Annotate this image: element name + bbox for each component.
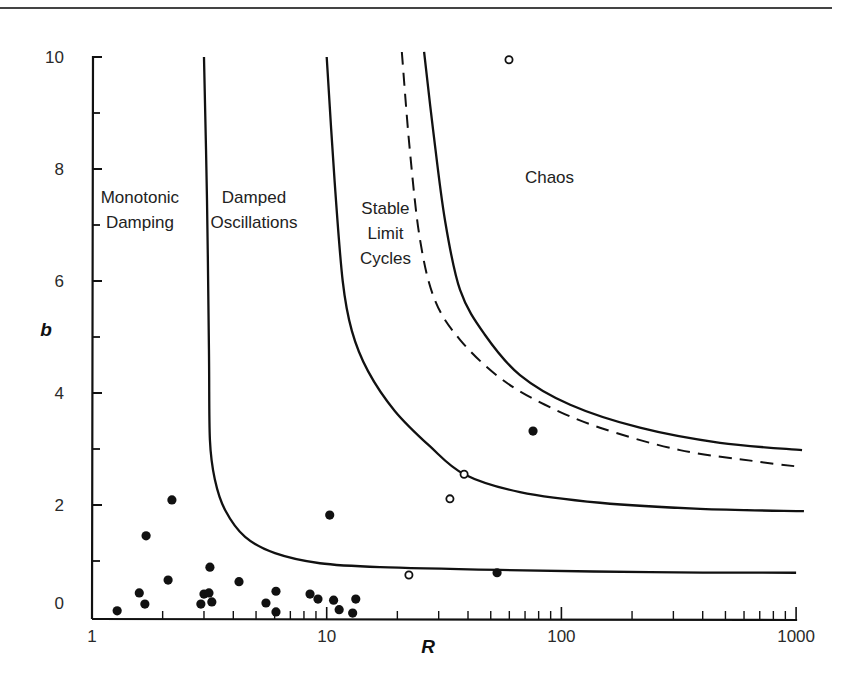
open-data-point [405, 571, 412, 578]
boundary-curves [204, 52, 804, 573]
filled-data-point [207, 597, 216, 606]
x-axis-line [92, 619, 797, 620]
filled-data-point [528, 426, 537, 435]
filled-data-point [335, 605, 344, 614]
filled-data-point [204, 588, 213, 597]
filled-data-point [167, 495, 176, 504]
filled-data-point [196, 600, 205, 609]
filled-data-point [113, 606, 122, 615]
open-data-point [505, 56, 512, 63]
axes: 02468101101001000 [45, 48, 815, 646]
region-label: Chaos [525, 168, 574, 187]
y-tick-label: 2 [55, 496, 64, 515]
filled-data-point [492, 568, 501, 577]
x-tick-label: 1 [87, 627, 96, 646]
filled-data-point [141, 531, 150, 540]
filled-data-point [140, 600, 149, 609]
y-tick-label: 8 [55, 160, 64, 179]
phase-diagram-chart: 02468101101001000 MonotonicDampingDamped… [0, 0, 851, 683]
open-data-point [461, 471, 468, 478]
filled-data-point [271, 587, 280, 596]
x-tick-label: 1000 [777, 627, 815, 646]
region-label: MonotonicDamping [101, 188, 180, 232]
x-tick-label: 10 [317, 627, 336, 646]
monotonic-damped-boundary-curve [204, 57, 796, 573]
filled-data-point [305, 589, 314, 598]
filled-data-point [348, 608, 357, 617]
x-tick-label: 100 [547, 627, 575, 646]
limitcycle-chaos-boundary-curve [424, 52, 802, 450]
open-data-point [446, 495, 453, 502]
y-tick-label: 6 [55, 272, 64, 291]
filled-data-point [261, 598, 270, 607]
y-axis-line [92, 57, 102, 619]
filled-data-point [313, 594, 322, 603]
y-tick-label: 10 [45, 48, 64, 67]
intermediate-boundary-curve [402, 52, 801, 467]
filled-data-point [234, 577, 243, 586]
x-axis-title: R [421, 636, 435, 657]
filled-data-point [164, 575, 173, 584]
filled-data-point [329, 596, 338, 605]
filled-data-point [351, 594, 360, 603]
region-label: DampedOscillations [211, 188, 298, 232]
filled-data-point [325, 510, 334, 519]
y-axis-title: b [40, 319, 52, 340]
region-label: StableLimitCycles [360, 199, 411, 268]
data-points [113, 56, 538, 617]
y-tick-label: 4 [55, 384, 64, 403]
damped-limitcycle-boundary-curve [327, 57, 804, 511]
filled-data-point [205, 563, 214, 572]
filled-data-point [135, 588, 144, 597]
filled-data-point [271, 607, 280, 616]
y-tick-label: 0 [55, 594, 64, 613]
